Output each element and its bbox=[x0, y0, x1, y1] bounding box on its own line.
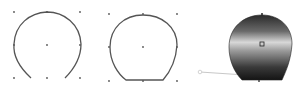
anchor-dot bbox=[79, 44, 81, 46]
gradient-handle-knob[interactable] bbox=[198, 70, 202, 74]
anchor-dot bbox=[176, 13, 178, 15]
anchor-dot bbox=[108, 46, 110, 48]
anchor-dot bbox=[142, 13, 144, 15]
anchor-dot bbox=[46, 11, 48, 13]
anchor-dot bbox=[176, 46, 178, 48]
anchor-dot bbox=[142, 46, 144, 48]
shapes-diagram bbox=[0, 0, 301, 96]
closed-shape-panel bbox=[108, 13, 178, 82]
gradient-shape-panel bbox=[198, 13, 292, 82]
anchor-dot bbox=[176, 80, 178, 82]
illustration-canvas bbox=[0, 0, 301, 96]
anchor-dot bbox=[108, 13, 110, 15]
anchor-dot bbox=[13, 11, 15, 13]
bottom-anchor-dot bbox=[258, 80, 260, 82]
anchor-dot bbox=[79, 77, 81, 79]
top-anchor-dot bbox=[261, 13, 263, 15]
anchor-dot bbox=[46, 44, 48, 46]
gradient-filled-shape-path bbox=[229, 15, 292, 80]
anchor-dot bbox=[142, 80, 144, 82]
anchor-dot bbox=[46, 77, 48, 79]
anchor-dot bbox=[13, 44, 15, 46]
open-curve-panel bbox=[13, 11, 81, 79]
anchor-dot bbox=[108, 80, 110, 82]
anchor-dot bbox=[13, 77, 15, 79]
anchor-dot bbox=[79, 11, 81, 13]
